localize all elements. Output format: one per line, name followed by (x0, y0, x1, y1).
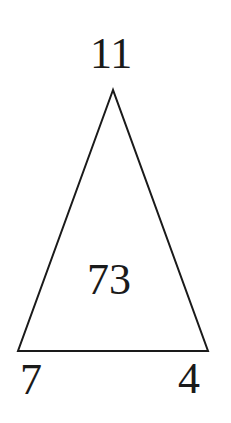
bottom-left-number: 7 (20, 358, 42, 402)
apex-number: 11 (90, 32, 132, 76)
bottom-right-number: 4 (178, 357, 200, 401)
center-number: 73 (87, 258, 131, 302)
triangle-puzzle: 11 73 7 4 (0, 0, 231, 423)
